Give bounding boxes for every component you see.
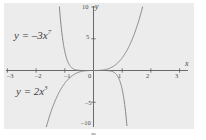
curves-group bbox=[46, 7, 142, 127]
y-tick-label: 10 bbox=[82, 4, 89, 11]
function-graph-figure: –3 –2 –1 0 1 2 3 10 5 –5 –10 x y y = –3x… bbox=[0, 0, 206, 140]
x-tick-label: 3 bbox=[175, 73, 178, 80]
x-tick-label: –3 bbox=[7, 73, 14, 80]
y-tick-label: 5 bbox=[86, 34, 89, 41]
curve-label-cubic-three: y = 2x3 bbox=[16, 86, 47, 97]
x-tick-label: –1 bbox=[64, 73, 71, 80]
curve-label-base: y = –3x bbox=[14, 29, 48, 41]
plot-canvas bbox=[0, 0, 206, 140]
x-tick-label: 2 bbox=[146, 73, 149, 80]
y-tick-label: –10 bbox=[81, 120, 91, 127]
axes-group bbox=[6, 6, 188, 127]
y-tick-label: –5 bbox=[85, 100, 92, 107]
x-tick-label: –2 bbox=[35, 73, 42, 80]
curve-label-cubic-seven: y = –3x7 bbox=[14, 30, 51, 41]
x-axis-label: x bbox=[185, 60, 189, 68]
curve-label-base: y = 2x bbox=[16, 85, 44, 97]
curve-label-exponent: 7 bbox=[48, 28, 51, 35]
y-axis-label: y bbox=[95, 3, 99, 11]
x-tick-label: 1 bbox=[118, 73, 121, 80]
x-tick-label-origin: 0 bbox=[88, 73, 91, 80]
curve-label-exponent: 3 bbox=[44, 84, 47, 91]
